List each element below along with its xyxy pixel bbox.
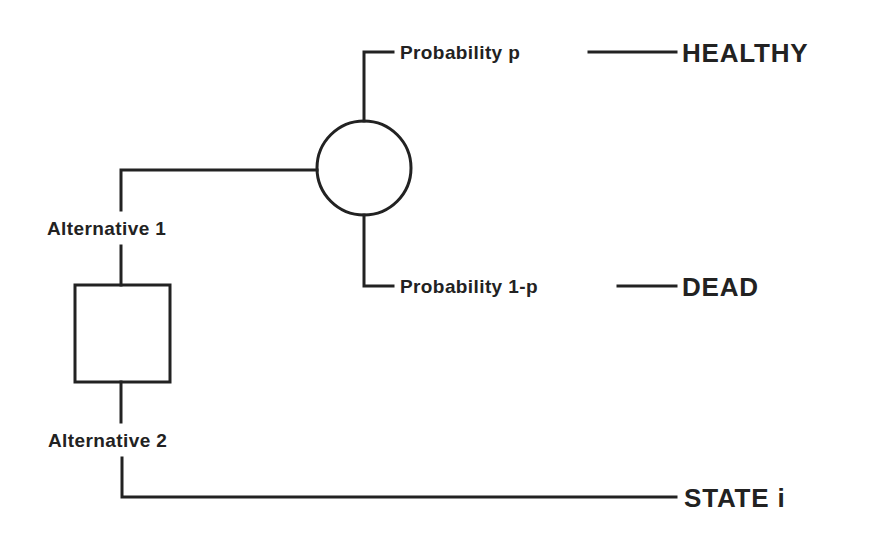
alt2-connector-lower: [122, 458, 676, 497]
branch-1-p-connector: [364, 215, 393, 286]
branch-p-connector: [364, 52, 393, 121]
chance-node-circle: [317, 121, 411, 215]
branch-probability-p-label: Probability p: [400, 43, 520, 62]
outcome-dead-label: DEAD: [682, 274, 759, 300]
alternative-2-label: Alternative 2: [48, 431, 167, 450]
alt1-connector-upper: [121, 170, 317, 210]
outcome-state-i-label: STATE i: [684, 485, 785, 511]
outcome-healthy-label: HEALTHY: [682, 40, 808, 66]
branch-probability-1-p-label: Probability 1-p: [400, 277, 538, 296]
decision-node-square: [75, 285, 170, 382]
alternative-1-label: Alternative 1: [47, 219, 166, 238]
